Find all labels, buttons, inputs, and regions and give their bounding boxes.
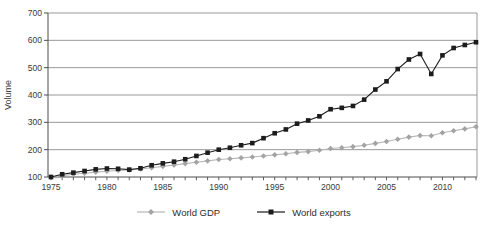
data-point	[250, 141, 255, 146]
data-point	[463, 43, 468, 48]
data-point	[261, 136, 266, 141]
data-point	[428, 133, 434, 139]
data-point	[238, 155, 244, 161]
x-tick-label: 1985	[153, 182, 172, 192]
data-point	[384, 139, 390, 145]
data-point	[216, 157, 222, 163]
data-point	[284, 127, 289, 132]
data-point	[373, 87, 378, 92]
data-point	[339, 106, 344, 111]
data-point	[328, 107, 333, 112]
data-point	[82, 169, 87, 174]
data-point	[149, 163, 154, 168]
data-point	[272, 152, 278, 158]
y-tick-label: 300	[28, 117, 43, 127]
data-point	[384, 79, 389, 84]
data-point	[362, 97, 367, 102]
data-point	[407, 57, 412, 62]
data-point	[351, 104, 356, 109]
data-point	[418, 52, 423, 57]
data-point	[294, 150, 300, 156]
data-point	[183, 157, 188, 162]
data-point	[116, 167, 121, 172]
data-point	[161, 161, 166, 166]
data-point	[328, 146, 334, 152]
x-tick-label: 2000	[321, 182, 340, 192]
data-point	[462, 126, 468, 132]
data-point	[473, 124, 479, 130]
data-point	[306, 118, 311, 123]
data-point	[350, 144, 356, 150]
data-point	[49, 175, 54, 180]
y-tick-label: 100	[28, 172, 43, 182]
data-point	[250, 154, 256, 160]
data-point	[440, 53, 445, 58]
data-point	[71, 170, 76, 175]
data-point	[127, 167, 132, 172]
data-point	[194, 154, 199, 159]
legend-label-world-exports: World exports	[292, 207, 350, 218]
data-point	[395, 136, 401, 142]
data-point	[395, 67, 400, 72]
data-point	[361, 142, 367, 148]
data-point	[227, 156, 233, 162]
data-point	[93, 167, 98, 172]
x-tick-label: 1990	[209, 182, 228, 192]
legend-item-world-gdp: World GDP	[136, 207, 220, 218]
data-point	[283, 151, 289, 157]
data-point	[105, 166, 110, 171]
data-point	[417, 133, 423, 139]
gridlines	[48, 13, 477, 150]
gdp-line-marker-icon	[136, 207, 166, 217]
y-axis-ticks: 100200300400500600700	[28, 8, 48, 182]
series-world-gdp	[48, 124, 479, 180]
x-tick-label: 2005	[377, 182, 396, 192]
y-tick-label: 500	[28, 63, 43, 73]
data-point	[228, 145, 233, 150]
data-point	[239, 143, 244, 148]
data-point	[60, 172, 65, 177]
line-chart-plot: 1002003004005006007001975198019851990199…	[0, 0, 487, 228]
y-axis-title: Volume	[2, 13, 14, 177]
data-point	[429, 72, 434, 77]
chart-figure: 1002003004005006007001975198019851990199…	[0, 0, 487, 228]
y-tick-label: 600	[28, 35, 43, 45]
legend-label-world-gdp: World GDP	[172, 207, 220, 218]
x-tick-label: 1995	[265, 182, 284, 192]
y-tick-label: 700	[28, 8, 43, 18]
data-point	[440, 130, 446, 136]
data-point	[148, 209, 154, 215]
data-point	[295, 121, 300, 126]
x-tick-label: 2010	[433, 182, 452, 192]
data-point	[272, 131, 277, 136]
data-point	[261, 153, 267, 159]
legend-item-world-exports: World exports	[256, 207, 350, 218]
data-point	[406, 134, 412, 140]
data-point	[474, 40, 479, 45]
data-point	[451, 128, 457, 134]
data-point	[269, 210, 274, 215]
legend: World GDP World exports	[0, 201, 487, 223]
data-point	[317, 114, 322, 119]
data-point	[451, 46, 456, 51]
data-point	[216, 147, 221, 152]
x-tick-label: 1975	[41, 182, 60, 192]
data-point	[194, 159, 200, 165]
x-axis-ticks: 19751980198519901995200020052010	[41, 177, 476, 192]
data-point	[205, 158, 211, 164]
data-point	[138, 166, 143, 171]
y-tick-label: 200	[28, 145, 43, 155]
data-point	[317, 147, 323, 153]
data-point	[205, 150, 210, 155]
exports-line-marker-icon	[256, 207, 286, 217]
x-tick-label: 1980	[97, 182, 116, 192]
data-point	[182, 161, 188, 167]
y-tick-label: 400	[28, 90, 43, 100]
data-point	[172, 159, 177, 164]
data-point	[373, 141, 379, 147]
